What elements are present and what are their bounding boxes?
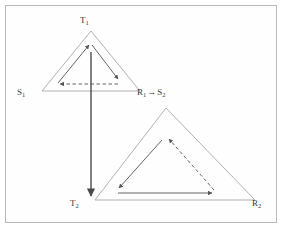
label-r2: R2 bbox=[252, 199, 261, 208]
arrow-t1-to-r1 bbox=[92, 45, 118, 79]
label-r1-to-s2: R1→S2 bbox=[137, 88, 166, 97]
map-arrow-icon: → bbox=[146, 87, 157, 97]
arrow-r2-to-s2-dashed bbox=[169, 139, 214, 190]
arrow-s1-to-t1 bbox=[58, 45, 89, 83]
outer-triangle-two bbox=[95, 108, 255, 200]
figure-canvas: T1 S1 R1→S2 T2 R2 bbox=[0, 0, 284, 230]
label-t1: T1 bbox=[80, 16, 89, 25]
triangle-two-outline bbox=[95, 108, 255, 200]
arrow-s2-to-t2 bbox=[119, 140, 162, 188]
label-t2: T2 bbox=[70, 199, 79, 208]
inner-cycle-two bbox=[118, 139, 214, 193]
inner-cycle-one bbox=[58, 45, 118, 84]
diagram-graphics bbox=[0, 0, 284, 230]
label-s1: S1 bbox=[17, 88, 25, 97]
